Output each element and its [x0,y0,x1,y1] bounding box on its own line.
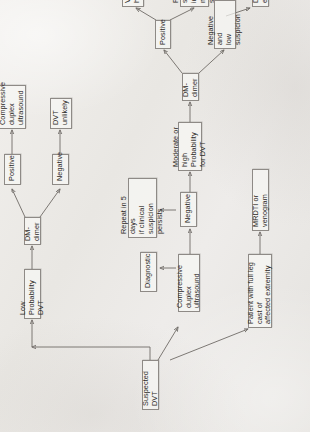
node-positive-low[interactable]: Positive [4,154,21,185]
node-label: Moderate or high Probability for DVT [172,126,208,167]
node-patient-with-full-leg-cast[interactable]: Patient with full leg cast of affected e… [248,254,272,328]
node-compressive-duplex-ultrasound-main[interactable]: Compressive duplex ultrasound [178,254,200,312]
node-diagnostic[interactable]: Diagnostic [140,252,157,292]
node-label: Negative and low suspicion [207,4,243,45]
node-compressive-duplex-ultrasound-top[interactable]: Compressive duplex ultrasound [0,85,26,129]
node-label: DVT unlikely [52,102,70,125]
node-negative-low[interactable]: Negative [52,154,69,185]
node-negative-and-low-suspicion[interactable]: Negative and low suspicion [214,0,236,49]
node-ddimer-moderate[interactable]: DM-dimer [182,73,199,101]
node-label: Diagnostic [144,256,153,288]
edge-ddimer-to-negative-low-susp [199,50,224,73]
node-label: Positive [159,24,168,45]
flowchart-canvas: Suspected DVT Low Probability DVT DM-dim… [0,0,310,432]
node-label: Negative [184,196,193,223]
node-label: MRDTI or venogram [252,173,270,227]
node-negative-ultrasound[interactable]: Negative [180,192,197,227]
edge-to-compressive-main [158,327,178,360]
node-low-probability-dvt[interactable]: Low Probability DVT [24,269,41,319]
flowchart-rotated-container: Suspected DVT Low Probability DVT DM-dim… [0,0,310,432]
node-suspected-dvt[interactable]: Suspected DVT [142,360,159,410]
node-label: Repeat in 5 days if clinical suspicion p… [120,182,164,234]
node-ddimer-low[interactable]: DM-dimer [24,217,41,245]
node-dvt-unlikely[interactable]: DVT unlikely [50,98,72,129]
node-label: Compressive duplex ultrasound [176,258,203,308]
node-venogram-if-high-suspicion[interactable]: Venogram if high suspicion [122,0,144,7]
edge-positive-to-repeat-sonogram [170,8,194,20]
node-label: Repeat sonogram in 3-5 days if moderate … [172,0,216,3]
node-positive-moderate[interactable]: Positive [155,20,171,49]
node-label: Positive [8,158,17,181]
node-mrdti-or-venogram[interactable]: MRDTI or venogram [252,169,269,231]
node-label: Venogram if high suspicion [124,0,142,3]
node-repeat-sonogram[interactable]: Repeat sonogram in 3-5 days if moderate … [180,0,209,7]
node-label: DM-dimer [182,77,200,97]
node-repeat-in-5-days[interactable]: Repeat in 5 days if clinical suspicion p… [128,178,157,238]
node-label: Low Probability DVT [19,273,46,315]
node-dvt-excluded[interactable]: DVT excluded [252,0,269,7]
node-label: DM-dimer [24,221,42,241]
edge-positive-to-venogram [136,8,156,20]
node-label: DVT excluded [252,0,270,3]
edge-ddimer-to-positive-mod [164,50,182,73]
node-moderate-or-high-probability[interactable]: Moderate or high Probability for DVT [178,122,202,171]
edge-ddimer-to-negative-low [40,189,60,217]
flowchart-page: Suspected DVT Low Probability DVT DM-dim… [0,0,310,432]
edge-to-patient-cast [170,329,248,360]
edge-ddimer-to-positive-low [12,189,25,217]
node-label: Patient with full leg cast of affected e… [247,258,274,324]
node-label: Negative [56,158,65,181]
node-label: Compressive duplex ultrasound [0,89,26,125]
node-label: Suspected DVT [142,364,160,406]
